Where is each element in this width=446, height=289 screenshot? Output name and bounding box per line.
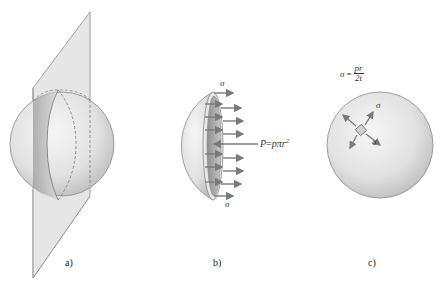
panel-label-b: b) (213, 257, 221, 268)
hoop-stress-formula: σ = pr 2t (340, 64, 364, 83)
figure-canvas (0, 0, 446, 289)
sigma-lower-label: σ (372, 137, 376, 147)
panel-a-sphere-with-plane (10, 12, 114, 278)
panel-b-hemisphere (181, 92, 258, 200)
cut-face (207, 96, 221, 196)
panel-label-a: a) (65, 257, 73, 268)
sigma-top-label: σ (220, 78, 224, 88)
sphere-a (10, 92, 114, 196)
panel-label-c: c) (368, 257, 376, 268)
sigma-upper-label: σ (376, 100, 380, 110)
sigma-bottom-label: σ (225, 199, 229, 209)
pressure-force-label: P=pπr2 (260, 137, 289, 149)
